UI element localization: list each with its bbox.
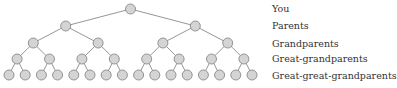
tree-node xyxy=(231,70,241,80)
tree-node xyxy=(12,54,22,64)
tree-node xyxy=(109,54,119,64)
tree-node xyxy=(93,38,103,48)
family-tree-diagram xyxy=(0,0,262,88)
tree-node xyxy=(207,54,217,64)
level-label-grandparents: Grandparents xyxy=(272,39,339,49)
tree-node xyxy=(150,70,160,80)
tree-edge xyxy=(195,26,227,43)
tree-edge xyxy=(66,26,98,43)
tree-node xyxy=(223,38,233,48)
tree-node xyxy=(53,70,63,80)
tree-node xyxy=(182,70,192,80)
tree-node xyxy=(174,54,184,64)
tree-node xyxy=(239,54,249,64)
tree-node xyxy=(101,70,111,80)
tree-node xyxy=(166,70,176,80)
tree-edge xyxy=(163,26,195,43)
tree-node xyxy=(20,70,30,80)
tree-node xyxy=(85,70,95,80)
tree-edge xyxy=(66,9,131,26)
tree-node xyxy=(4,70,14,80)
tree-node xyxy=(45,54,55,64)
level-label-you: You xyxy=(272,4,289,14)
tree-node xyxy=(190,21,200,31)
tree-node xyxy=(247,70,257,80)
tree-edge xyxy=(33,26,65,43)
tree-node xyxy=(36,70,46,80)
tree-node xyxy=(142,54,152,64)
tree-node xyxy=(134,70,144,80)
tree-node xyxy=(61,21,71,31)
tree-node xyxy=(77,54,87,64)
tree-node xyxy=(28,38,38,48)
tree-node xyxy=(117,70,127,80)
level-label-parents: Parents xyxy=(272,21,309,31)
tree-node xyxy=(198,70,208,80)
tree-node xyxy=(126,4,136,14)
tree-edge xyxy=(131,9,196,26)
tree-node xyxy=(158,38,168,48)
level-label-great-great-grandparents: Great-great-grandparents xyxy=(272,71,397,81)
level-label-great-grandparents: Great-grandparents xyxy=(272,54,368,64)
tree-node xyxy=(69,70,79,80)
tree-node xyxy=(215,70,225,80)
